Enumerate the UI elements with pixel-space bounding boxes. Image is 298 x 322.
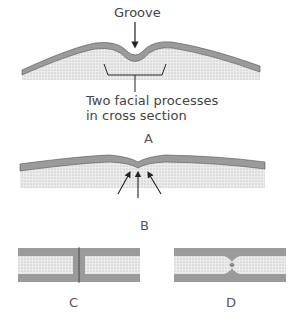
panel-a-letter: A (144, 131, 153, 146)
processes-label-line1: Two facial processes (86, 93, 218, 108)
panel-a-cross-section (22, 22, 260, 92)
processes-label-line2: in cross section (86, 108, 187, 123)
panel-c-letter: C (69, 295, 78, 310)
panel-c-fused-processes (18, 247, 140, 283)
panel-b-letter: B (140, 218, 149, 233)
groove-label: Groove (114, 5, 161, 20)
panel-d-merged-processes (174, 248, 286, 282)
panel-d-letter: D (226, 295, 236, 310)
panel-b-cross-section (20, 155, 265, 198)
diagram-canvas (0, 0, 298, 322)
